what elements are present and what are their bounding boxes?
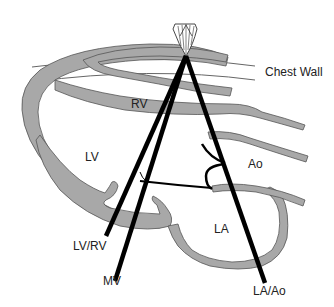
heart-echo-diagram: Chest Wall RV LV Ao LA LV/RV MV LA/Ao [0, 0, 334, 307]
label-lv: LV [85, 150, 99, 164]
beam-mv [115, 56, 186, 281]
beam-lv-rv [106, 56, 186, 236]
label-rv: RV [131, 97, 147, 111]
label-ao: Ao [248, 157, 263, 171]
label-beam-lv-rv: LV/RV [73, 239, 107, 253]
label-beam-mv: MV [103, 274, 121, 288]
label-beam-la-ao: LA/Ao [253, 284, 286, 298]
label-chest-wall: Chest Wall [265, 65, 323, 79]
label-la: LA [214, 222, 229, 236]
